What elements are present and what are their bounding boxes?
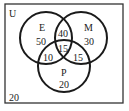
set-label-p: P [61,67,67,78]
set-label-m: M [84,22,93,33]
region-m-only: 30 [84,36,94,47]
set-label-e: E [39,22,45,33]
universe-label: U [9,8,17,19]
region-e-p: 10 [43,52,53,63]
region-e-m-p: 15 [58,43,68,54]
region-e-only: 50 [36,36,46,47]
region-m-p: 15 [73,52,83,63]
venn-diagram: U 20 E 50 M 30 40 15 10 15 P 20 [0,0,129,111]
region-p-only: 20 [59,79,69,90]
outside-count: 20 [9,92,19,103]
region-e-m: 40 [58,28,68,39]
